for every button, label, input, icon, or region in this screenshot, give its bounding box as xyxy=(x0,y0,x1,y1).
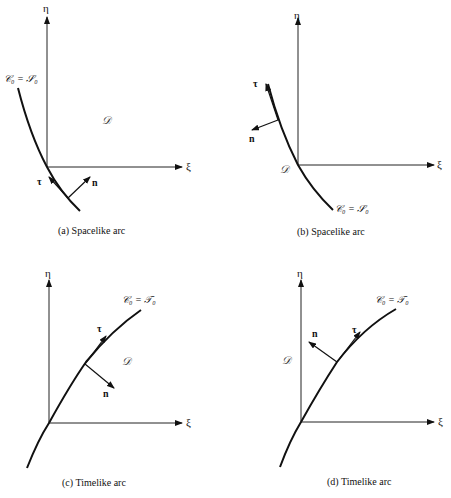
normal-label: n xyxy=(92,178,98,188)
caption-a: (a) Spacelike arc xyxy=(58,226,125,236)
panel-d xyxy=(280,280,434,467)
curve-label: 𝒞₀ = 𝒯₀ xyxy=(122,295,156,305)
xi-axis-label: ξ xyxy=(186,161,191,172)
tangent-vector xyxy=(337,332,360,362)
normal-vector xyxy=(85,364,114,388)
normal-label: n xyxy=(312,329,318,339)
tangent-label: τ xyxy=(253,79,258,89)
timelike-curve xyxy=(27,310,141,468)
domain-label: 𝒟 xyxy=(102,115,111,126)
eta-axis-label: η xyxy=(297,268,303,279)
eta-axis-label: η xyxy=(294,10,300,21)
spacelike-curve xyxy=(268,84,333,210)
xi-axis-label: ξ xyxy=(438,416,443,427)
timelike-curve xyxy=(280,309,396,467)
domain-label: 𝒟 xyxy=(282,355,291,366)
normal-vector xyxy=(252,120,278,130)
tangent-vector xyxy=(49,177,68,198)
normal-vector xyxy=(309,342,337,362)
domain-label: 𝒟 xyxy=(280,164,289,175)
tangent-label: τ xyxy=(37,177,42,187)
normal-label: n xyxy=(103,389,109,399)
caption-b: (b) Spacelike arc xyxy=(297,227,365,237)
caption-d: (d) Timelike arc xyxy=(327,477,391,487)
caption-c: (c) Timelike arc xyxy=(62,478,126,488)
curve-label: 𝒞₀ = 𝒯₀ xyxy=(375,295,409,305)
spacelike-curve xyxy=(18,88,80,211)
eta-axis-label: η xyxy=(45,268,51,279)
domain-label: 𝒟 xyxy=(122,356,131,367)
tangent-vector xyxy=(266,84,278,120)
figure-canvas xyxy=(0,0,451,498)
curve-label: 𝒞₀ = 𝒮₀ xyxy=(335,204,369,214)
tangent-vector xyxy=(85,336,106,364)
normal-label: n xyxy=(249,134,255,144)
panel-c xyxy=(27,280,182,468)
curve-label: 𝒞₀ = 𝒮₀ xyxy=(4,74,38,84)
panel-a xyxy=(18,17,182,211)
panel-b xyxy=(252,18,434,210)
normal-vector xyxy=(68,177,90,198)
eta-axis-label: η xyxy=(43,3,49,14)
xi-axis-label: ξ xyxy=(437,159,442,170)
tangent-label: τ xyxy=(352,325,357,335)
tangent-label: τ xyxy=(97,324,102,334)
xi-axis-label: ξ xyxy=(186,417,191,428)
